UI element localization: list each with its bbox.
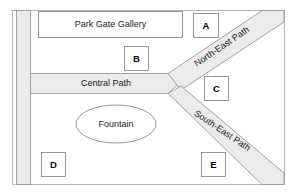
marker-a[interactable]: A <box>194 14 219 38</box>
marker-a-label: A <box>203 20 210 31</box>
marker-e[interactable]: E <box>202 153 226 177</box>
park-map-svg: Park Gate Gallery Fountain Central Path … <box>0 0 297 196</box>
marker-c[interactable]: C <box>205 77 229 101</box>
marker-e-label: E <box>210 159 216 170</box>
fountain-label: Fountain <box>98 119 133 129</box>
fountain[interactable]: Fountain <box>76 105 156 143</box>
park-gate-gallery[interactable]: Park Gate Gallery <box>39 12 183 38</box>
central-path-label: Central Path <box>81 78 131 88</box>
marker-b[interactable]: B <box>125 47 149 71</box>
park-gate-gallery-label: Park Gate Gallery <box>75 19 147 29</box>
west-path[interactable] <box>17 11 31 185</box>
park-map-container: Park Gate Gallery Fountain Central Path … <box>0 0 297 196</box>
marker-c-label: C <box>213 83 220 94</box>
marker-b-label: B <box>133 53 140 64</box>
marker-d[interactable]: D <box>42 153 66 177</box>
marker-d-label: D <box>50 159 57 170</box>
